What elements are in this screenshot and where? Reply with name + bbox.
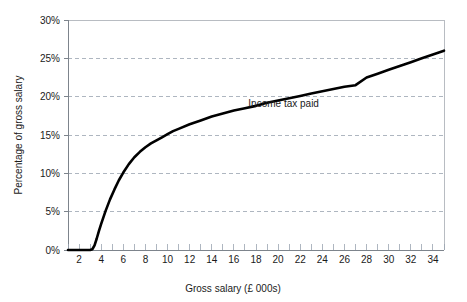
x-axis-tick-label: 16 — [228, 254, 240, 265]
series-annotations: Income tax paid — [248, 98, 319, 109]
y-axis-tick-label: 25% — [40, 53, 60, 64]
x-axis-tick-label: 20 — [273, 254, 285, 265]
x-axis-tick-label: 22 — [295, 254, 307, 265]
x-axis-tick-label: 12 — [184, 254, 196, 265]
x-axis-tick-label: 26 — [339, 254, 351, 265]
y-axis-title: Percentage of gross salary — [13, 76, 24, 195]
x-axis-tick-label: 4 — [98, 254, 104, 265]
x-axis-tick-label: 14 — [206, 254, 218, 265]
x-axis-tick-label: 32 — [405, 254, 417, 265]
x-axis-tick-label: 24 — [317, 254, 329, 265]
x-axis-tick-label: 2 — [76, 254, 82, 265]
y-axis-tick-label: 0% — [46, 245, 61, 256]
y-axis-tick-label: 15% — [40, 130, 60, 141]
series-annotation-label: Income tax paid — [248, 98, 319, 109]
x-axis-title: Gross salary (£ 000s) — [185, 283, 281, 294]
y-axis-tick-label: 20% — [40, 91, 60, 102]
y-axis-tick-label: 10% — [40, 168, 60, 179]
x-axis-tick-label: 8 — [143, 254, 149, 265]
chart-container: 246810121416182022242628303234 0%5%10%15… — [0, 0, 467, 302]
x-axis-tick-label: 28 — [361, 254, 373, 265]
x-axis-tick-label: 10 — [162, 254, 174, 265]
x-axis-tick-label: 34 — [427, 254, 439, 265]
x-axis-tick-label: 18 — [250, 254, 262, 265]
x-axis-tick-label: 30 — [383, 254, 395, 265]
y-axis-tick-label: 30% — [40, 15, 60, 26]
x-axis-tick-label: 6 — [121, 254, 127, 265]
y-axis-tick-label: 5% — [46, 206, 61, 217]
income-tax-line-chart: 246810121416182022242628303234 0%5%10%15… — [0, 0, 467, 302]
